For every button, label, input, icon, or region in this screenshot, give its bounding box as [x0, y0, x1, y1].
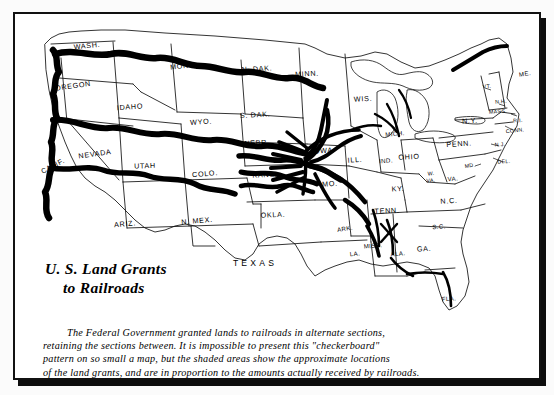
figure-stage: WASH.OREGONCALIF.IDAHONEVADAUTAHARIZ.MON…: [0, 0, 554, 395]
state-label-wis: WIS.: [354, 95, 373, 104]
border-ut-co: [181, 124, 185, 180]
state-label-wva2: VA.: [426, 178, 435, 184]
border-or-id-step: [133, 84, 141, 92]
border-mo-il: [349, 166, 377, 172]
state-label-utah: UTAH: [134, 162, 156, 170]
caption-line-3: pattern on so small a map, but the shade…: [43, 352, 513, 365]
state-label-okla: OKLA.: [260, 211, 285, 220]
band-wisconsin-east: [351, 125, 381, 130]
caption-line-4: of the land grants, and are in proportio…: [43, 366, 513, 379]
band-maine: [453, 46, 507, 70]
state-label-iowa: IOWA: [311, 146, 333, 155]
state-label-ind: IND.: [379, 157, 393, 164]
state-label-tenn: TENN.: [374, 207, 399, 216]
state-label-idaho: IDAHO: [117, 102, 144, 111]
leader-ri: [511, 114, 517, 116]
state-label-fla: FLA.: [442, 295, 457, 302]
state-label-mass: MASS.: [489, 109, 507, 115]
border-md-de: [485, 150, 501, 154]
border-nm-tx-w: [253, 224, 259, 246]
state-label-vt: VT.: [482, 84, 491, 90]
state-label-nc: N.C.: [440, 197, 458, 206]
state-label-kans: KANS.: [252, 171, 277, 180]
state-label-ga: GA.: [417, 245, 432, 253]
lake-superior: [351, 60, 433, 90]
framed-map-card: WASH.OREGONCALIF.IDAHONEVADAUTAHARIZ.MON…: [13, 12, 541, 380]
band-west-spur-b: [271, 166, 301, 168]
state-label-penn: PENN.: [446, 139, 472, 148]
border-co-ks-nm: [247, 178, 253, 204]
border-nv-ut-id: [119, 118, 181, 124]
state-label-colo: COLO.: [192, 169, 218, 179]
usa-map-drawing: [15, 14, 539, 378]
state-label-ky: KY.: [391, 185, 404, 193]
border-ks-ok: [247, 200, 315, 202]
map-canvas: WASH.OREGONCALIF.IDAHONEVADAUTAHARIZ.MON…: [15, 14, 539, 378]
border-pa-md-wv: [439, 154, 485, 160]
title-line-2: to Railroads: [63, 279, 275, 297]
border-ia-il-mo: [345, 146, 349, 198]
border-il-in: [377, 140, 381, 172]
band-northern-pacific: [55, 52, 323, 88]
band-michigan-up: [399, 90, 411, 118]
border-wv-va: [439, 160, 447, 182]
state-label-wyo: WYO.: [190, 117, 212, 126]
state-label-ohio: OHIO: [398, 153, 420, 162]
border-vt-nh-n: [489, 72, 499, 74]
state-label-ill: ILL.: [347, 156, 362, 165]
state-label-sc: S.C.: [432, 223, 446, 230]
band-gulf-coast: [407, 273, 443, 275]
border-nm-tx-corner: [191, 226, 215, 246]
state-label-del: DEL.: [497, 159, 510, 165]
border-nc-sc: [461, 204, 485, 210]
border-tn-al-w: [405, 200, 407, 212]
border-tn-ga-nc: [407, 210, 461, 212]
state-label-la: LA.: [350, 250, 361, 257]
state-label-sdak: S. DAK.: [240, 110, 271, 119]
caption-line-1: The Federal Government granted lands to …: [43, 326, 513, 339]
border-ct-ma-s: [495, 122, 513, 124]
border-in-ky: [381, 172, 419, 174]
state-label-ny: N.Y.: [462, 117, 478, 126]
border-or-nv-id: [141, 92, 175, 110]
border-ok-tx: [259, 242, 321, 246]
border-vt-ny: [481, 76, 489, 110]
state-label-ndak: N. DAK.: [241, 64, 272, 73]
state-label-ariz: ARIZ.: [114, 219, 136, 228]
leader-md: [475, 164, 481, 166]
figure-caption: The Federal Government granted lands to …: [43, 326, 513, 379]
caption-line-2: retaining the sections between. It is im…: [43, 339, 513, 352]
state-label-nh: N.H.: [495, 99, 507, 105]
state-label-ri: R.I.: [513, 118, 523, 124]
state-label-nebr: NEBR.: [244, 139, 270, 148]
state-label-minn: MINN.: [295, 70, 319, 79]
border-mn-wi: [345, 54, 351, 126]
state-label-nj: N.J.: [495, 142, 506, 148]
title-line-1: U. S. Land Grants: [45, 260, 275, 278]
border-tx-ar-la: [321, 240, 367, 242]
border-oh-wv-pa: [433, 138, 439, 160]
border-mt-wy-id: [177, 112, 241, 114]
border-id-mt-w: [171, 44, 177, 112]
state-label-mo: MO.: [322, 180, 338, 189]
state-label-ala: ALA.: [390, 250, 405, 258]
state-label-va: VA.: [448, 175, 459, 182]
figure-title: U. S. Land Grants to Railroads: [45, 260, 275, 297]
